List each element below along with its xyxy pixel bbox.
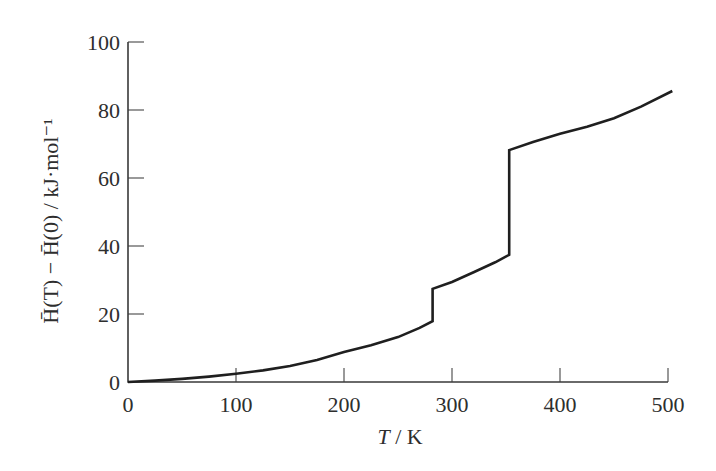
y-axis-ticks: 020406080100	[87, 30, 144, 395]
x-tick-label: 100	[220, 392, 253, 417]
x-axis-ticks: 0100200300400500	[123, 368, 685, 417]
x-tick-label: 400	[544, 392, 577, 417]
y-tick-label: 20	[98, 302, 120, 327]
enthalpy-curve	[128, 91, 672, 382]
y-tick-label: 40	[98, 234, 120, 259]
x-tick-label: 500	[652, 392, 685, 417]
y-axis-title: H̄(T) − H̄(0) / kJ·mol⁻¹	[38, 118, 63, 323]
x-axis-title: T / K	[377, 424, 422, 449]
y-tick-label: 60	[98, 166, 120, 191]
y-tick-label: 100	[87, 30, 120, 55]
y-tick-label: 80	[98, 98, 120, 123]
chart: 020406080100 0100200300400500 T / K H̄(T…	[0, 0, 716, 471]
x-tick-label: 0	[123, 392, 134, 417]
x-tick-label: 300	[436, 392, 469, 417]
axes	[128, 42, 668, 382]
y-tick-label: 0	[109, 370, 120, 395]
x-tick-label: 200	[328, 392, 361, 417]
